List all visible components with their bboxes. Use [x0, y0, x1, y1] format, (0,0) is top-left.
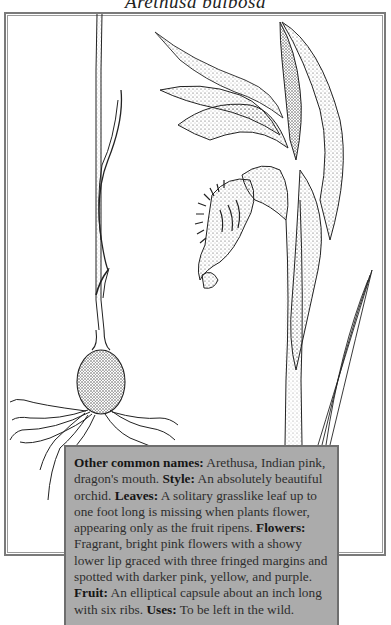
text-flowers: Fragrant, bright pink flowers with a sho… [74, 536, 327, 584]
label-uses: Uses: [146, 602, 176, 617]
label-fruit: Fruit: [74, 585, 108, 600]
main-stem [285, 170, 321, 445]
text-uses: To be left in the wild. [177, 602, 294, 617]
label-style: Style: [162, 471, 195, 486]
label-common-names: Other common names: [74, 455, 204, 470]
species-description: Other common names: Arethusa, Indian pin… [64, 445, 339, 625]
left-stalk [96, 14, 121, 330]
basal-leaf [318, 270, 372, 445]
label-leaves: Leaves: [115, 488, 159, 503]
bulb [77, 330, 125, 414]
flower-lip [195, 166, 288, 288]
label-flowers: Flowers: [256, 520, 305, 535]
